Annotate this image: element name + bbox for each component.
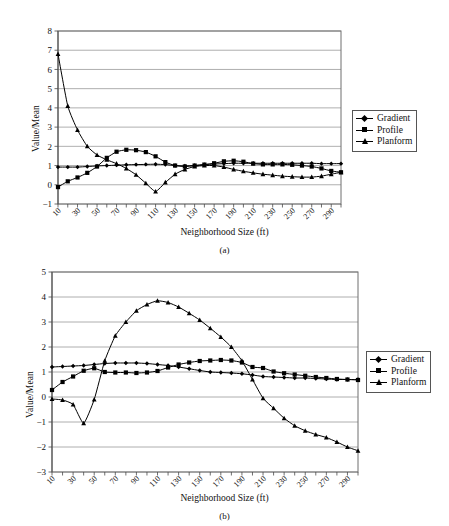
svg-text:50: 50	[90, 206, 102, 218]
svg-text:270: 270	[302, 206, 317, 221]
svg-text:170: 170	[211, 474, 226, 489]
x-axis-label-b: Neighborhood Size (ft)	[0, 493, 449, 503]
svg-text:290: 290	[337, 474, 352, 489]
legend-item-planform: Planform	[370, 377, 426, 389]
svg-text:0: 0	[48, 180, 53, 190]
diamond-marker-icon	[370, 355, 387, 365]
svg-text:1: 1	[42, 367, 47, 377]
svg-text:230: 230	[263, 206, 278, 221]
legend-item-profile: Profile	[370, 366, 426, 378]
svg-text:−2: −2	[36, 442, 46, 452]
legend-item-profile: Profile	[356, 125, 412, 137]
legend-label: Planform	[391, 377, 426, 389]
figure-page: Value/Mean −1012345678103050709011013015…	[0, 0, 449, 526]
legend-item-planform: Planform	[356, 136, 412, 148]
svg-text:5: 5	[42, 267, 47, 277]
svg-text:10: 10	[51, 206, 63, 218]
svg-text:170: 170	[204, 206, 219, 221]
legend-label: Profile	[377, 125, 403, 137]
svg-text:90: 90	[129, 206, 141, 218]
svg-text:10: 10	[45, 474, 57, 486]
svg-text:2: 2	[48, 142, 53, 152]
svg-text:110: 110	[146, 206, 161, 221]
svg-text:250: 250	[282, 206, 297, 221]
y-axis-label-a: Value/Mean	[31, 105, 41, 152]
legend-item-gradient: Gradient	[356, 113, 412, 125]
svg-text:190: 190	[224, 206, 239, 221]
triangle-marker-icon	[356, 137, 373, 147]
legend-label: Gradient	[391, 354, 424, 366]
legend-label: Planform	[377, 136, 412, 148]
chart-panel-b: Value/Mean −3−2−101234510305070901101301…	[0, 262, 449, 526]
svg-text:270: 270	[316, 474, 331, 489]
svg-text:6: 6	[48, 65, 53, 75]
svg-text:70: 70	[108, 474, 120, 486]
panel-caption-b: (b)	[0, 511, 449, 521]
svg-text:4: 4	[48, 103, 53, 113]
triangle-marker-icon	[370, 378, 387, 388]
svg-text:150: 150	[190, 474, 205, 489]
svg-text:4: 4	[42, 292, 47, 302]
legend-label: Gradient	[377, 113, 410, 125]
square-marker-icon	[370, 366, 387, 376]
svg-text:1: 1	[48, 161, 53, 171]
svg-text:5: 5	[48, 84, 53, 94]
svg-text:3: 3	[42, 317, 47, 327]
legend-item-gradient: Gradient	[370, 354, 426, 366]
x-axis-label-a: Neighborhood Size (ft)	[0, 227, 449, 237]
svg-text:3: 3	[48, 122, 53, 132]
chart-panel-a: Value/Mean −1012345678103050709011013015…	[0, 14, 449, 262]
svg-text:2: 2	[42, 342, 47, 352]
legend-label: Profile	[391, 366, 417, 378]
svg-text:210: 210	[243, 206, 258, 221]
chart-svg-b: −3−2−10123451030507090110130150170190210…	[0, 262, 449, 526]
svg-text:190: 190	[232, 474, 247, 489]
svg-text:250: 250	[295, 474, 310, 489]
svg-text:70: 70	[109, 206, 121, 218]
legend-b: Gradient Profile Planform	[366, 351, 431, 393]
svg-text:30: 30	[70, 206, 82, 218]
svg-text:230: 230	[274, 474, 289, 489]
svg-text:210: 210	[253, 474, 268, 489]
svg-text:290: 290	[321, 206, 336, 221]
panel-caption-a: (a)	[0, 245, 449, 255]
svg-text:30: 30	[66, 474, 78, 486]
svg-text:110: 110	[148, 474, 163, 489]
svg-text:90: 90	[129, 474, 141, 486]
diamond-marker-icon	[356, 114, 373, 124]
svg-text:−1: −1	[36, 417, 46, 427]
svg-text:−1: −1	[42, 199, 52, 209]
y-axis-label-b: Value/Mean	[25, 371, 35, 418]
svg-text:0: 0	[42, 392, 47, 402]
svg-text:150: 150	[184, 206, 199, 221]
svg-text:130: 130	[165, 206, 180, 221]
svg-text:7: 7	[48, 45, 53, 55]
svg-text:130: 130	[168, 474, 183, 489]
svg-text:−3: −3	[36, 467, 46, 477]
svg-text:8: 8	[48, 26, 53, 36]
legend-a: Gradient Profile Planform	[352, 110, 417, 152]
square-marker-icon	[356, 125, 373, 135]
svg-text:50: 50	[87, 474, 99, 486]
